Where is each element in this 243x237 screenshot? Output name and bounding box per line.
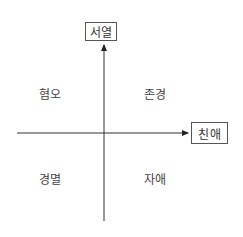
horizontal-axis-label-box: 친애	[191, 122, 228, 144]
quadrant-label-top-right: 존경	[144, 85, 167, 102]
axes-graphic	[0, 0, 243, 237]
quadrant-label-bottom-left: 경멸	[39, 170, 62, 187]
horizontal-axis-label: 친애	[198, 125, 221, 142]
quadrant-label-bottom-right: 자애	[144, 170, 167, 187]
vertical-axis-label: 서열	[90, 23, 113, 40]
quadrant-diagram: 서열 친애 혐오 존경 경멸 자애	[0, 0, 243, 237]
quadrant-label-top-left: 혐오	[39, 85, 62, 102]
vertical-axis-label-box: 서열	[85, 22, 117, 41]
